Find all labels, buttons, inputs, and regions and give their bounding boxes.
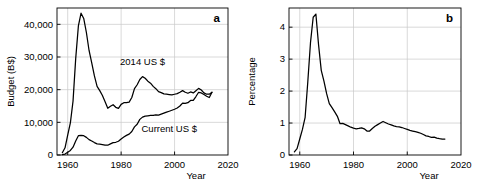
svg-text:20,000: 20,000: [24, 84, 53, 95]
y-axis-title: Budget (B$): [5, 56, 16, 107]
series-label-2014-usd: 2014 US $: [120, 56, 166, 67]
panel-b: 012341960198020002020PercentageYearb: [241, 0, 482, 181]
svg-text:1980: 1980: [111, 159, 132, 170]
svg-text:2000: 2000: [164, 159, 185, 170]
x-axis-title: Year: [186, 170, 205, 181]
svg-text:2020: 2020: [217, 159, 238, 170]
svg-text:2: 2: [280, 85, 285, 96]
panel-letter: b: [446, 12, 453, 24]
panel-a: 010,00020,00030,00040,000196019802000202…: [0, 0, 241, 181]
series-label-current-usd: Current US $: [142, 123, 198, 134]
svg-text:0: 0: [48, 149, 53, 160]
svg-text:40,000: 40,000: [24, 19, 53, 30]
panel-a-plot: 010,00020,00030,00040,000196019802000202…: [0, 0, 241, 181]
svg-text:1: 1: [280, 117, 285, 128]
svg-text:1980: 1980: [343, 159, 364, 170]
svg-text:1960: 1960: [289, 159, 310, 170]
series-line-1: [294, 14, 445, 152]
svg-text:1960: 1960: [57, 159, 78, 170]
svg-text:10,000: 10,000: [24, 117, 53, 128]
panel-letter: a: [214, 12, 221, 24]
svg-text:2020: 2020: [450, 159, 471, 170]
svg-text:30,000: 30,000: [24, 51, 53, 62]
panel-b-plot: 012341960198020002020PercentageYearb: [241, 0, 482, 181]
x-axis-title: Year: [419, 170, 438, 181]
svg-text:2000: 2000: [397, 159, 418, 170]
svg-text:0: 0: [280, 149, 285, 160]
figure-root: 010,00020,00030,00040,000196019802000202…: [0, 0, 482, 181]
svg-text:4: 4: [280, 21, 285, 32]
svg-text:3: 3: [280, 53, 285, 64]
y-axis-title: Percentage: [246, 57, 257, 106]
